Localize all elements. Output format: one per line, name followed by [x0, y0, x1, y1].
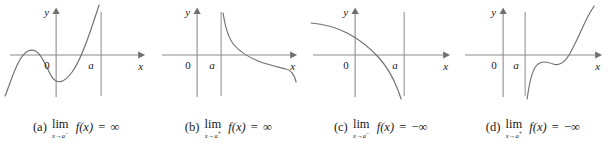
curve-b [223, 13, 296, 82]
panel-b-limit: lim x→a+ [205, 118, 222, 140]
panel-a-tag: (a) [33, 120, 47, 134]
x-axis-label: x [442, 60, 448, 72]
y-axis-label: y [490, 6, 496, 18]
panel-c-lim-subscript: x→a− [353, 131, 369, 140]
x-axis-label: x [594, 60, 600, 72]
panel-c-limit: lim x→a− [353, 118, 370, 140]
asymptote-label: a [209, 59, 215, 71]
axes-group-c [313, 8, 450, 98]
panel-b-lim-word: lim [205, 118, 222, 131]
panel-d-caption: (d) lim x→a+ f(x) = −∞ [457, 117, 609, 139]
panel-c-caption: (c) lim x→a− f(x) = −∞ [305, 117, 457, 139]
panel-b-plot: y x 0 a [152, 0, 304, 105]
asymptote-label: a [88, 59, 94, 71]
curve-c [311, 23, 401, 99]
y-axis-label: y [184, 6, 190, 18]
panel-d-plot: y x 0 a [457, 0, 609, 105]
y-axis-label: y [342, 6, 348, 18]
panel-c-sub-arrow: → [356, 133, 363, 140]
curve-a [5, 5, 99, 96]
y-axis-arrow [351, 8, 358, 15]
panel-c-lim-word: lim [353, 118, 370, 131]
panel-c-tag: (c) [334, 120, 348, 134]
panel-d-tag: (d) [486, 120, 501, 134]
panel-b-equals: = [251, 120, 258, 134]
panel-c-plot: y x 0 a [305, 0, 457, 105]
asymptote-label: a [513, 59, 519, 71]
panel-a-caption: (a) lim x→a− f(x) = ∞ [0, 117, 152, 139]
axes-group-d [465, 8, 602, 98]
y-axis-arrow [53, 8, 60, 15]
origin-label: 0 [343, 59, 349, 71]
panel-d-function: f(x) [529, 120, 546, 134]
panel-b-result: ∞ [263, 120, 272, 134]
panel-d-equals: = [552, 120, 559, 134]
panel-c-sub-sign: − [366, 130, 369, 136]
panel-a-lim-subscript: x→a− [52, 131, 68, 140]
axes-group-a [10, 8, 145, 98]
panel-a-sub-arrow: → [55, 133, 62, 140]
x-axis-arrow [595, 51, 602, 58]
x-axis-arrow [138, 51, 145, 58]
panel-a-limit: lim x→a− [52, 118, 69, 140]
panel-b-lim-subscript: x→a+ [205, 131, 221, 140]
x-axis-label: x [137, 60, 143, 72]
panel-a-plot: y x 0 a [0, 0, 152, 105]
x-axis-arrow [290, 51, 297, 58]
y-axis-arrow [194, 8, 201, 15]
panel-d-sub-sign: + [519, 130, 522, 136]
panel-c-result: −∞ [411, 120, 427, 134]
panel-b: y x 0 a (b) lim x→a+ f(x) = ∞ [152, 0, 304, 143]
panel-d-result: −∞ [564, 120, 580, 134]
panel-d: y x 0 a (d) lim x→a+ f(x) = −∞ [457, 0, 609, 143]
panel-a: y x 0 a (a) lim x→a− f(x) = ∞ [0, 0, 152, 143]
panel-b-sub-sign: + [218, 130, 221, 136]
y-axis-arrow [499, 8, 506, 15]
panel-b-function: f(x) [228, 120, 245, 134]
limits-figure: y x 0 a (a) lim x→a− f(x) = ∞ [0, 0, 609, 143]
panel-b-tag: (b) [185, 120, 200, 134]
panel-a-function: f(x) [76, 120, 93, 134]
origin-label: 0 [491, 59, 497, 71]
panel-c: y x 0 a (c) lim x→a− f(x) = −∞ [305, 0, 457, 143]
asymptote-label: a [392, 59, 398, 71]
panel-d-lim-word: lim [506, 118, 523, 131]
axes-group-b [162, 8, 297, 98]
x-axis-arrow [443, 51, 450, 58]
panel-a-equals: = [98, 120, 105, 134]
panel-b-caption: (b) lim x→a+ f(x) = ∞ [152, 117, 304, 139]
panel-d-lim-subscript: x→a+ [506, 131, 522, 140]
x-axis-label: x [289, 60, 295, 72]
panel-a-result: ∞ [110, 120, 119, 134]
origin-label: 0 [44, 59, 50, 71]
origin-label: 0 [185, 59, 191, 71]
panel-a-lim-word: lim [52, 118, 69, 131]
panel-c-equals: = [399, 120, 406, 134]
curve-d [527, 6, 594, 99]
panel-a-sub-sign: − [65, 130, 68, 136]
panel-d-limit: lim x→a+ [506, 118, 523, 140]
y-axis-label: y [43, 6, 49, 18]
panel-c-function: f(x) [377, 120, 394, 134]
